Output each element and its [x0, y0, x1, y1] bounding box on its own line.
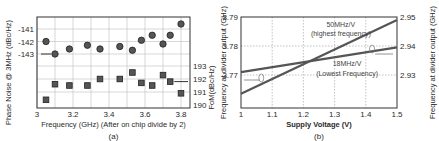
- phase-noise-point: [43, 38, 49, 44]
- fom-point: [117, 76, 123, 82]
- annotation-50mhz: 50MHz/V: [326, 21, 355, 28]
- phase-noise-point: [167, 32, 173, 38]
- annotation-18mhz: 18MHz/V: [333, 60, 362, 67]
- x-tick-label: 3.8: [175, 110, 187, 119]
- y-left-tick-label: -142: [18, 38, 35, 47]
- x-axis-label: Supply Voltage (V): [286, 120, 352, 129]
- fom-point: [160, 72, 166, 78]
- y-right-axis-label: Frequency at divider output (GHz): [428, 6, 437, 119]
- fom-point: [149, 83, 155, 89]
- caption-a: (a): [109, 132, 119, 141]
- y-right-tick-label: 2.95: [400, 13, 416, 22]
- y-right-axis-label: FoM(dBc/Hz): [207, 65, 216, 110]
- x-tick-label: 1.3: [329, 110, 341, 119]
- x-tick-label: 1.4: [360, 110, 372, 119]
- phase-noise-point: [129, 47, 135, 53]
- x-tick-label: 3.2: [67, 110, 79, 119]
- phase-noise-point: [138, 37, 144, 43]
- x-tick-label: 3.4: [103, 110, 115, 119]
- phase-noise-point: [178, 21, 184, 27]
- phase-noise-point: [97, 46, 103, 52]
- fom-point: [130, 70, 136, 76]
- y-right-tick-label: 192: [193, 75, 207, 84]
- figure: 33.23.43.63.8-141-142-143193192191190Fre…: [0, 0, 439, 141]
- phase-noise-point: [66, 46, 72, 52]
- x-tick-label: 1.5: [391, 110, 403, 119]
- y-left-tick-label: -143: [18, 50, 35, 59]
- fom-point: [52, 81, 58, 87]
- fom-point: [178, 91, 184, 97]
- fom-point: [97, 76, 103, 82]
- y-right-tick-label: 191: [193, 88, 207, 97]
- fom-point: [167, 79, 173, 85]
- chart-a: 33.23.43.63.8-141-142-143193192191190Fre…: [4, 17, 216, 141]
- x-tick-label: 3: [35, 110, 40, 119]
- phase-noise-point: [84, 42, 90, 48]
- fom-point: [67, 83, 73, 89]
- y-right-tick-label: 193: [193, 62, 207, 71]
- phase-noise-point: [52, 51, 58, 57]
- y-right-tick-label: 2.93: [400, 71, 416, 80]
- y-left-axis-label: Frequency at divider output (GHz): [219, 6, 228, 119]
- phase-noise-point: [149, 32, 155, 38]
- y-right-tick-label: 2.94: [400, 42, 416, 51]
- y-right-tick-label: 190: [193, 101, 207, 110]
- annotation-lowest: (Lowest Frequency): [316, 70, 378, 78]
- fom-point: [139, 80, 145, 86]
- x-tick-label: 3.6: [139, 110, 151, 119]
- y-left-axis-label: Phase Noise @ 3MHz (dBc/Hz): [4, 19, 13, 125]
- indicator-ellipse-left: [259, 74, 264, 82]
- caption-b: (b): [314, 132, 324, 141]
- y-left-tick-label: -141: [18, 25, 35, 34]
- x-tick-label: 1.2: [298, 110, 310, 119]
- fom-point: [43, 97, 49, 103]
- chart-b: 11.11.21.31.41.53.793.783.772.952.942.93…: [219, 6, 437, 141]
- annotation-highest: (highest frequency): [311, 30, 371, 38]
- line-18mhz-per-v: [241, 47, 397, 72]
- phase-noise-point: [117, 43, 123, 49]
- x-tick-label: 1: [239, 110, 244, 119]
- phase-noise-point: [160, 41, 166, 47]
- fom-point: [85, 83, 91, 89]
- plot-frame: [37, 17, 190, 108]
- x-tick-label: 1.1: [267, 110, 279, 119]
- x-axis-label: Frequency (GHz) (After on chip divide by…: [41, 120, 186, 129]
